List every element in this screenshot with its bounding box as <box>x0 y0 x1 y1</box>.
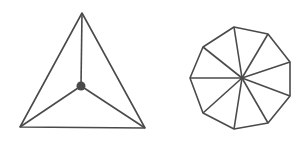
center-point <box>240 76 244 80</box>
spoke-line <box>20 86 81 127</box>
diagram-canvas <box>0 0 306 144</box>
spoke-line <box>234 78 242 129</box>
spoke-line <box>242 78 290 96</box>
spoke-line <box>234 27 242 78</box>
spoke-line <box>203 78 242 113</box>
spoke-line <box>81 13 82 86</box>
spoke-line <box>81 86 145 128</box>
spoke-line <box>203 47 242 78</box>
triangle-figure <box>20 13 145 128</box>
spoke-line <box>242 78 268 123</box>
nonagon-figure <box>190 27 290 129</box>
center-point <box>77 82 86 91</box>
